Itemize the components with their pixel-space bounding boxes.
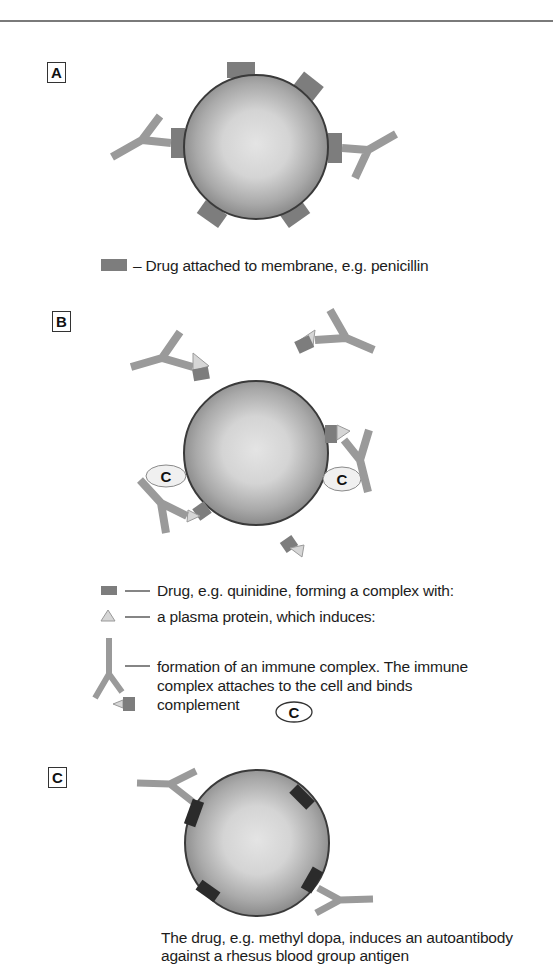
legend-complement-icon: C <box>276 702 312 722</box>
legend-text-immune-complex-3: complement <box>157 696 239 714</box>
drug-protein-complex-icon <box>280 535 304 557</box>
legend-drug-rect-a <box>101 259 127 271</box>
legend-immune-complex-icon <box>95 638 135 711</box>
legend-text-plasma-protein: a plasma protein, which induces: <box>157 608 375 626</box>
panel-a-diagram <box>101 62 396 271</box>
antibody-drug-complex-icon <box>131 332 210 381</box>
panel-c-diagram <box>137 770 373 916</box>
svg-text:C: C <box>289 704 300 721</box>
complement-icon: C <box>146 465 186 487</box>
red-cell-a <box>184 75 328 219</box>
legend-drug-rect-b <box>101 586 117 595</box>
legend-text-immune-complex-2: complex attaches to the cell and binds <box>157 677 412 695</box>
antibody-drug-complex-icon <box>294 310 374 354</box>
diagram-canvas: C C <box>0 0 553 980</box>
legend-text-a: – Drug attached to membrane, e.g. penici… <box>133 257 428 275</box>
legend-plasma-protein-triangle <box>101 610 115 621</box>
caption-c-line-2: against a rhesus blood group antigen <box>161 947 409 965</box>
complement-icon: C <box>323 467 361 491</box>
svg-text:C: C <box>337 471 348 488</box>
caption-c-line-1: The drug, e.g. methyl dopa, induces an a… <box>161 929 513 947</box>
svg-text:C: C <box>161 468 172 485</box>
legend-text-immune-complex-1: formation of an immune complex. The immu… <box>157 658 468 676</box>
red-cell-b <box>184 381 328 525</box>
legend-text-drug: Drug, e.g. quinidine, forming a complex … <box>157 582 454 600</box>
